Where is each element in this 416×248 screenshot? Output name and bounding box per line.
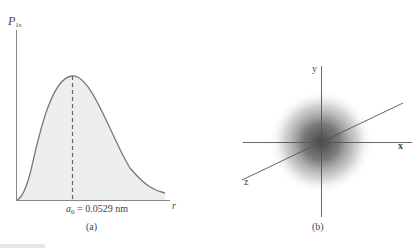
panel-b-orbital	[242, 66, 412, 217]
bottom-edge-strip	[0, 244, 45, 248]
caption-b: (b)	[312, 221, 324, 232]
panel-a-plot	[16, 30, 170, 201]
y-axis-label: P1s	[8, 14, 22, 29]
axis-z-label: z	[244, 176, 248, 187]
axis-y-label: y	[312, 63, 317, 74]
caption-a: (a)	[86, 221, 97, 232]
axis-x-label: x	[398, 140, 403, 151]
figure-canvas	[0, 0, 416, 248]
y-axis-label-subscript: 1s	[15, 21, 21, 29]
x-axis-label: r	[172, 200, 176, 211]
peak-annotation: a0 = 0.0529 nm	[66, 203, 128, 216]
bohr-radius-value: = 0.0529 nm	[75, 203, 128, 214]
